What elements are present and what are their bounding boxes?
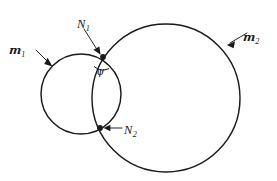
label-n1-base: N xyxy=(77,17,85,31)
label-n2-subscript: 2 xyxy=(133,130,137,139)
label-n1: N1 xyxy=(77,15,90,31)
intersection-point-n1 xyxy=(100,54,106,60)
label-n2: N2 xyxy=(124,121,137,137)
intersection-point-n2 xyxy=(97,125,103,131)
label-psi: ψ xyxy=(96,66,104,77)
label-m2-subscript: 2 xyxy=(255,37,259,46)
figure-canvas: m1 m2 N1 N2 ψ xyxy=(0,0,277,181)
label-m1-base: m xyxy=(8,45,21,57)
label-n1-subscript: 1 xyxy=(86,24,90,33)
arrow-head-n1 xyxy=(93,47,100,55)
label-m2: m2 xyxy=(243,28,259,44)
label-m1: m1 xyxy=(9,41,25,57)
circle-m2 xyxy=(92,24,240,172)
circle-m1 xyxy=(41,54,121,134)
label-n2-base: N xyxy=(124,123,132,137)
circles-diagram-svg xyxy=(0,0,277,181)
label-m1-subscript: 1 xyxy=(21,50,25,59)
label-m2-base: m xyxy=(242,32,255,44)
